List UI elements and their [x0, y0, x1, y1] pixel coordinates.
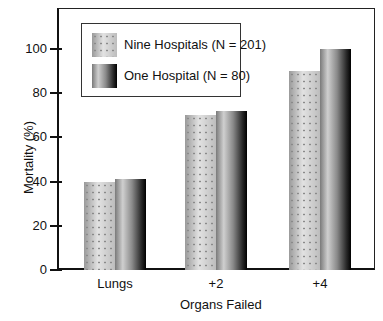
y-tick	[50, 225, 62, 227]
y-tick	[50, 48, 62, 50]
legend-label: One Hospital (N = 80)	[124, 68, 250, 83]
y-tick-label: 80	[33, 85, 47, 100]
bar-nine-hospitals-lungs	[84, 182, 115, 270]
x-tick-label: +2	[186, 276, 246, 291]
bar-one-hospital-lungs	[115, 179, 146, 270]
legend: Nine Hospitals (N = 201) One Hospital (N…	[81, 23, 241, 97]
x-axis-label: Organs Failed	[180, 297, 262, 312]
y-tick	[50, 181, 62, 183]
y-tick-label: 100	[25, 41, 47, 56]
bar-one-hospital-plus2	[216, 111, 247, 270]
y-tick	[50, 136, 62, 138]
x-tick-label: +4	[290, 276, 350, 291]
bar-one-hospital-plus4	[320, 49, 351, 270]
legend-label: Nine Hospitals (N = 201)	[124, 37, 266, 52]
x-tick-label: Lungs	[85, 276, 145, 291]
y-tick-label: 0	[40, 262, 47, 277]
y-tick	[50, 269, 62, 271]
y-tick-label: 60	[33, 129, 47, 144]
legend-swatch-dotted	[92, 33, 117, 57]
y-tick-label: 20	[33, 218, 47, 233]
y-tick	[50, 92, 62, 94]
bar-nine-hospitals-plus2	[185, 115, 216, 270]
bar-nine-hospitals-plus4	[289, 71, 320, 270]
legend-swatch-solid	[92, 64, 117, 88]
y-tick-label: 40	[33, 174, 47, 189]
